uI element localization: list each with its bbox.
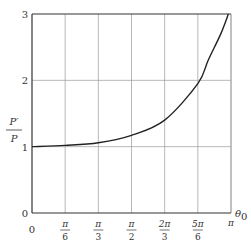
- svg-text:π: π: [128, 219, 136, 229]
- x-axis-label-subscript: 0: [241, 211, 247, 222]
- y-tick-label: 2: [22, 75, 28, 86]
- svg-text:2: 2: [129, 232, 135, 242]
- svg-text:π: π: [94, 219, 102, 229]
- x-tick-label-fraction: π3: [93, 219, 103, 242]
- x-tick-label-fraction: π6: [60, 219, 70, 242]
- x-tick-label-fraction: π2: [127, 219, 137, 242]
- x-tick-label: 0: [29, 224, 35, 235]
- y-tick-label: 0: [22, 208, 28, 219]
- svg-text:6: 6: [195, 232, 201, 242]
- x-tick-labels: 0π6π3π22π35π6π: [29, 218, 235, 242]
- svg-text:3: 3: [95, 232, 101, 242]
- x-tick-label: π: [227, 218, 235, 228]
- x-axis-label: θ 0: [235, 208, 247, 222]
- svg-text:3: 3: [162, 232, 168, 242]
- svg-text:2π: 2π: [158, 219, 172, 229]
- svg-text:5π: 5π: [192, 219, 205, 229]
- gridlines: [32, 14, 231, 213]
- y-axis-label-numerator: P′: [9, 116, 20, 127]
- x-tick-label-fraction: 5π6: [192, 219, 205, 242]
- y-axis-label-denominator: P: [10, 133, 18, 144]
- y-tick-label: 1: [22, 142, 28, 153]
- y-tick-label: 3: [22, 9, 28, 20]
- y-axis-label: P′ P: [6, 116, 22, 144]
- chart: 0123 0π6π3π22π35π6π P′ P θ 0: [0, 0, 251, 249]
- svg-text:π: π: [61, 219, 69, 229]
- x-tick-label-fraction: 2π3: [158, 219, 172, 242]
- svg-text:6: 6: [62, 232, 68, 242]
- y-tick-labels: 0123: [22, 9, 28, 219]
